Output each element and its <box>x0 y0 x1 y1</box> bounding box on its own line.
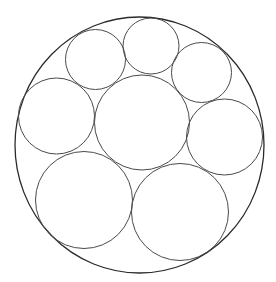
inner-circle-right <box>187 99 263 175</box>
inner-circles-group <box>19 18 263 261</box>
inner-circle-bottom-left <box>36 152 133 249</box>
inner-circle-top-right <box>172 43 232 103</box>
inner-circle-left <box>19 78 95 154</box>
inner-circle-center <box>95 75 190 170</box>
inner-circle-top-middle <box>123 18 179 74</box>
inner-circle-top-left <box>66 30 126 90</box>
diagram-svg <box>0 0 276 282</box>
circle-packing-diagram <box>0 0 276 282</box>
inner-circle-bottom-right <box>132 164 229 261</box>
